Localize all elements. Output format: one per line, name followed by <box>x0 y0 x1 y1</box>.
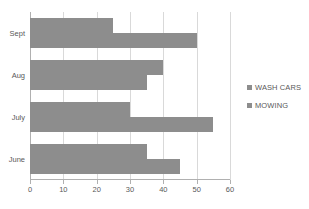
tick-mark-0 <box>30 180 31 184</box>
x-axis-tick-label-60: 60 <box>226 185 234 194</box>
tick-mark-20 <box>97 180 98 184</box>
y-axis-label-sept: Sept <box>0 12 28 54</box>
y-axis-label-aug: Aug <box>0 54 28 96</box>
y-axis-label-june: June <box>0 138 28 180</box>
gridline-60 <box>230 12 231 180</box>
x-axis-tick-label-40: 40 <box>159 185 167 194</box>
bar-aug-wash-cars[interactable] <box>30 60 163 75</box>
bar-june-mowing[interactable] <box>30 159 180 174</box>
tick-mark-40 <box>163 180 164 184</box>
y-axis-category-labels: Sept Aug July June <box>0 12 28 180</box>
x-axis-tick-marks <box>30 180 230 184</box>
x-axis-tick-label-30: 30 <box>126 185 134 194</box>
x-axis-tick-label-0: 0 <box>28 185 32 194</box>
bar-sept-wash-cars[interactable] <box>30 18 113 33</box>
legend-swatch-icon <box>247 103 252 108</box>
legend-swatch-icon <box>247 85 252 90</box>
bar-group-aug <box>30 54 230 96</box>
tick-mark-60 <box>230 180 231 184</box>
bar-sept-mowing[interactable] <box>30 33 197 48</box>
bar-groups <box>30 12 230 180</box>
tick-mark-50 <box>197 180 198 184</box>
legend-item-mowing[interactable]: MOWING <box>247 101 309 110</box>
bar-july-wash-cars[interactable] <box>30 102 130 117</box>
legend-label-wash-cars: WASH CARS <box>255 83 301 92</box>
legend-item-wash-cars[interactable]: WASH CARS <box>247 83 309 92</box>
x-axis-tick-labels: 0102030405060 <box>30 185 230 199</box>
legend-label-mowing: MOWING <box>255 101 288 110</box>
bar-june-wash-cars[interactable] <box>30 144 147 159</box>
tick-mark-30 <box>130 180 131 184</box>
bar-group-june <box>30 138 230 180</box>
bar-group-july <box>30 96 230 138</box>
x-axis-tick-label-10: 10 <box>59 185 67 194</box>
bar-chart: Sept Aug July June 0102030405060 WASH CA… <box>0 0 309 209</box>
bar-group-sept <box>30 12 230 54</box>
bar-aug-mowing[interactable] <box>30 75 147 90</box>
y-axis-label-july: July <box>0 96 28 138</box>
plot-area <box>30 12 230 180</box>
x-axis-tick-label-50: 50 <box>192 185 200 194</box>
chart-legend: WASH CARS MOWING <box>247 83 309 119</box>
tick-mark-10 <box>63 180 64 184</box>
bar-july-mowing[interactable] <box>30 117 213 132</box>
x-axis-tick-label-20: 20 <box>92 185 100 194</box>
